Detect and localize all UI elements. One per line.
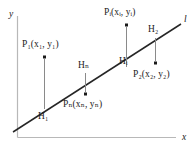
foot-label-hn: Hₙ bbox=[78, 61, 89, 71]
foot-label-hn-text: Hₙ bbox=[78, 60, 89, 70]
foot-label-h1: H₁ bbox=[38, 112, 48, 122]
foot-label-h2: H₂ bbox=[148, 25, 158, 35]
data-point-p1 bbox=[43, 56, 46, 59]
point-label-pn-text: Pₙ(xₙ, yₙ) bbox=[63, 99, 102, 109]
point-label-pn: Pₙ(xₙ, yₙ) bbox=[63, 100, 102, 110]
foot-label-h2-text: H₂ bbox=[148, 24, 158, 34]
point-label-p1-text: P₁(x₁, y₁) bbox=[22, 39, 59, 49]
data-point-p2 bbox=[154, 62, 157, 65]
point-label-p1: P₁(x₁, y₁) bbox=[22, 40, 59, 50]
data-point-pi bbox=[125, 24, 128, 27]
point-label-pi: Pᵢ(xᵢ, yᵢ) bbox=[104, 8, 136, 18]
figure-canvas: y x l P₁(x₁, y₁) H₁ Pₙ(xₙ, yₙ) Hₙ Pᵢ(xᵢ,… bbox=[0, 0, 196, 158]
foot-label-hi-text: Hᵢ bbox=[119, 56, 128, 66]
data-point-pn bbox=[84, 93, 87, 96]
y-axis-label: y bbox=[9, 10, 13, 20]
x-axis-label: x bbox=[182, 133, 186, 143]
point-label-p2-text: P₂(x₂, y₂) bbox=[133, 69, 170, 79]
foot-label-h1-text: H₁ bbox=[38, 111, 48, 121]
line-label-l: l bbox=[184, 15, 187, 25]
point-label-p2: P₂(x₂, y₂) bbox=[133, 70, 170, 80]
point-label-pi-text: Pᵢ(xᵢ, yᵢ) bbox=[104, 7, 136, 17]
foot-label-hi: Hᵢ bbox=[119, 57, 128, 67]
